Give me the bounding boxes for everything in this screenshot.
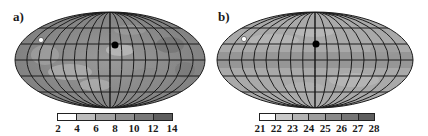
colorbar-a (57, 113, 173, 121)
map-a-texture (10, 12, 210, 108)
colorbar-a-ticks: 2 4 6 8 10 12 14 (58, 122, 172, 134)
marker-open-b (241, 36, 246, 41)
colorbar-b (259, 113, 375, 121)
marker-filled-a (112, 42, 119, 49)
marker-open-a (38, 37, 43, 42)
panel-b: b) (214, 0, 428, 136)
colorbar-b-ticks: 21 22 23 24 25 26 27 28 (260, 122, 374, 134)
marker-filled-b (313, 41, 320, 48)
panel-a: a) (0, 0, 214, 136)
